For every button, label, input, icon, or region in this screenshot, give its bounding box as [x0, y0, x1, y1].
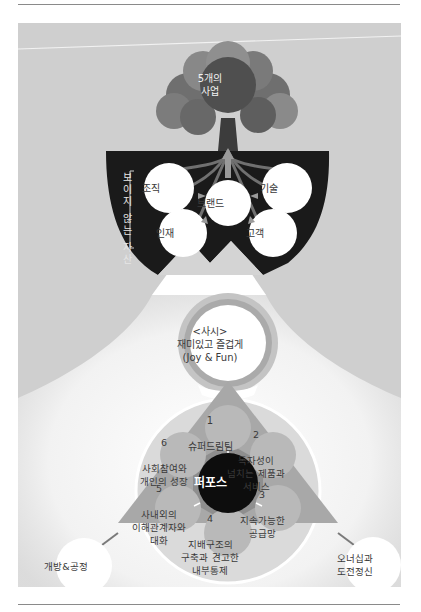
asset-customer-label: 고객	[246, 227, 264, 240]
value-ownership-label: 오너십과 도전정신	[337, 552, 373, 578]
value-open-fair-label: 개방&공정	[44, 560, 87, 573]
petal-1-number: 1	[207, 415, 213, 426]
petal-4-label: 4 지배구조의 구축과 견고한 내부통제	[181, 499, 238, 577]
bottom-rule	[18, 604, 400, 605]
asset-brand-label: 브랜드	[197, 197, 224, 210]
petal-1-label: 1 슈퍼드림팀	[188, 401, 233, 453]
ethos-label: <사시> 재미있고 즐겁게 (Joy & Fun)	[177, 325, 243, 364]
asset-talent-label: 인재	[156, 227, 174, 240]
diagram-panel: 5개의 사업 보이지 않는 자산 조직 기술 인재 고객 브랜드 <사시> 재미…	[18, 23, 401, 587]
petal-6-label: 6 사회참여와 개인의 성장	[140, 423, 188, 488]
horizon-line	[18, 36, 401, 49]
petal-3-label: 3 지속가능한 공급망	[240, 475, 285, 540]
invisible-assets-label: 보이지 않는 자산	[119, 172, 134, 266]
petal-4-number: 4	[207, 513, 213, 524]
petal-6-number: 6	[161, 437, 167, 448]
tree-crown-label: 5개의 사업	[198, 72, 222, 98]
petal-5-text: 사내외의 이해관계자와 대화	[132, 509, 186, 546]
petal-3-text: 지속가능한 공급망	[240, 515, 285, 539]
petal-1-text: 슈퍼드림팀	[188, 441, 233, 452]
top-rule	[18, 4, 400, 5]
petal-6-text: 사회참여와 개인의 성장	[140, 463, 188, 487]
petal-3-number: 3	[259, 489, 265, 500]
asset-org-label: 조직	[142, 182, 160, 195]
petal-2-number: 2	[253, 429, 259, 440]
petal-4-text: 지배구조의 구축과 견고한 내부통제	[181, 539, 238, 576]
tree-trunk	[218, 118, 238, 151]
asset-tech-label: 기술	[260, 182, 278, 195]
purpose-core-label: 퍼포스	[194, 477, 227, 490]
